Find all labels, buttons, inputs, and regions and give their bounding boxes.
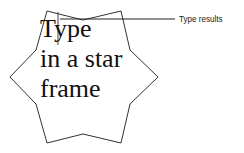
callout-label: Type results — [179, 13, 223, 25]
text-line-1: Type — [40, 14, 122, 44]
star-frame-text: Type in a star frame — [40, 14, 122, 104]
diagram-canvas: Type in a star frame Type results — [0, 0, 244, 153]
text-line-2: in a star — [40, 44, 122, 74]
text-line-3: frame — [40, 74, 122, 104]
